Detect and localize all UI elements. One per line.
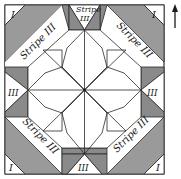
edge-label-bottom: III bbox=[77, 163, 89, 173]
up-arrow-icon bbox=[172, 4, 178, 28]
edge-label-right: III bbox=[146, 88, 158, 98]
quilt-block-diagram: I I I I III III III Stripe III Stripe II… bbox=[0, 0, 181, 179]
top-stripe-label-line2: III bbox=[79, 14, 90, 23]
top-stripe-label-line1: Stripe bbox=[76, 5, 101, 14]
star-center-point bbox=[83, 89, 86, 92]
edge-label-left: III bbox=[7, 88, 19, 98]
